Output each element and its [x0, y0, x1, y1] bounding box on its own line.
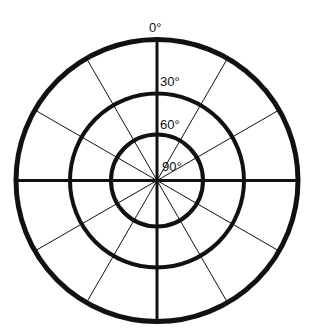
label-0-degrees: 0°: [149, 20, 161, 35]
polar-elevation-diagram: 0° 30° 60° 90°: [0, 0, 313, 336]
label-60-degrees: 60°: [160, 117, 180, 132]
label-90-degrees: 90°: [162, 159, 182, 174]
label-30-degrees: 30°: [160, 74, 180, 89]
